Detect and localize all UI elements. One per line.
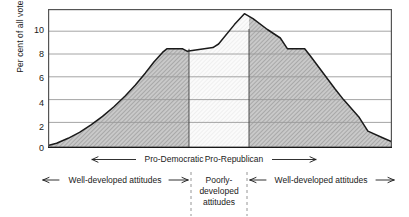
- chart-figure: Per cent of all voters 10 8 6 4 2 0: [0, 0, 409, 217]
- label-poorly-line2: developed: [193, 186, 245, 197]
- region-pro-republican: [249, 9, 392, 148]
- y-tick-0: 0: [26, 144, 44, 153]
- label-pro-republican: Pro-Republican: [196, 154, 272, 165]
- label-well-developed-right: Well-developed attitudes: [264, 175, 378, 186]
- y-tick-4: 4: [26, 99, 44, 108]
- y-tick-8: 8: [26, 50, 44, 59]
- attitudes-annotation-row: Well-developed attitudes Poorly- develop…: [6, 172, 406, 217]
- distribution-area-chart: [48, 9, 392, 148]
- y-tick-10: 10: [26, 26, 44, 35]
- region-poorly-developed: [189, 9, 249, 148]
- party-annotation-row: Pro-Democratic Pro-Republican: [48, 152, 392, 170]
- y-tick-2: 2: [26, 123, 44, 132]
- area-fills: [48, 9, 392, 148]
- label-poorly-line1: Poorly-: [193, 175, 245, 186]
- plot-area: [48, 9, 392, 148]
- y-tick-6: 6: [26, 74, 44, 83]
- label-well-developed-left: Well-developed attitudes: [59, 175, 171, 186]
- region-pro-democratic: [48, 9, 189, 148]
- label-poorly-line3: attitudes: [193, 197, 245, 208]
